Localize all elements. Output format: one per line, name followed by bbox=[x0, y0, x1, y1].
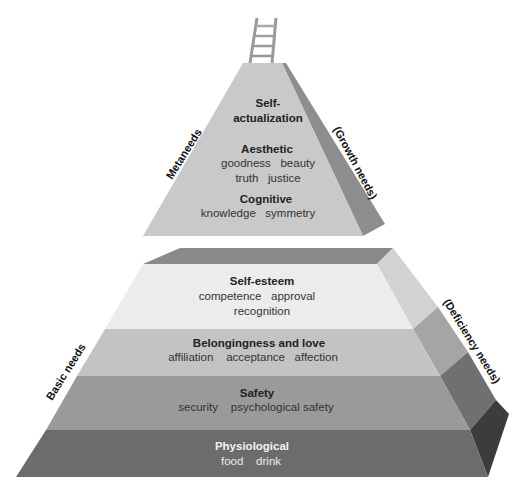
self-esteem-items-2: recognition bbox=[234, 305, 290, 317]
self-actualization-title-2: actualization bbox=[233, 112, 303, 124]
ladder-icon bbox=[250, 18, 276, 63]
safety-title: Safety bbox=[240, 387, 275, 399]
belonging-items: affiliation acceptance affection bbox=[168, 351, 338, 363]
cognitive-items: knowledge symmetry bbox=[201, 207, 316, 219]
aesthetic-items-2: truth justice bbox=[235, 172, 300, 184]
self-esteem-title: Self-esteem bbox=[230, 275, 295, 287]
aesthetic-title: Aesthetic bbox=[241, 143, 293, 155]
belonging-title: Belongingness and love bbox=[193, 337, 325, 349]
physiological-items: food drink bbox=[221, 455, 281, 467]
cognitive-title: Cognitive bbox=[240, 193, 292, 205]
physiological-title: Physiological bbox=[215, 440, 289, 452]
maslow-hierarchy-diagram: Self- actualization Aesthetic goodness b… bbox=[0, 0, 526, 491]
bottom-pyramid-top-face bbox=[143, 248, 393, 264]
self-esteem-items-1: competence approval bbox=[199, 290, 315, 302]
aesthetic-items-1: goodness beauty bbox=[221, 157, 315, 169]
safety-items: security psychological safety bbox=[178, 401, 334, 413]
self-actualization-title-1: Self- bbox=[256, 97, 281, 109]
physiological-band bbox=[16, 430, 488, 477]
